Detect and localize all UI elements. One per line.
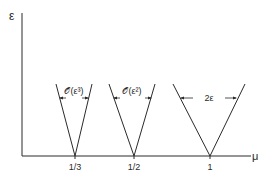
tongue-width-label: 𝒪(ε²) [122,86,141,96]
tick-label: 1/2 [128,162,141,172]
tick-label: 1 [207,162,212,172]
x-axis-label: μ [252,150,258,162]
arnold-tongues-diagram: ε μ 𝒪(ε³) 𝒪(ε²) 2ε 1/3 1/2 1 [0,0,273,195]
tongue-width-label: 𝒪(ε³) [64,86,83,96]
tongue-one-half: 𝒪(ε²) [109,84,155,156]
tick-label: 1/3 [69,162,82,172]
y-axis-label: ε [9,9,15,23]
tongue-one: 2ε [173,84,245,156]
tongue-one-third: 𝒪(ε³) [56,84,92,156]
arrowhead-icon [233,97,237,100]
tongue-width-label: 2ε [204,93,213,103]
